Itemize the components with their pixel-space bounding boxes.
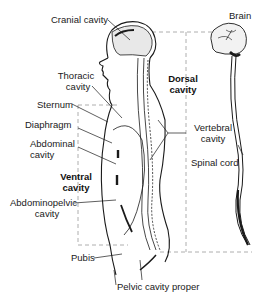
human-figure [99, 22, 169, 275]
label-ventral-cavity-2: cavity [56, 182, 96, 193]
label-ventral-cavity-1: Ventral [56, 171, 96, 182]
label-diaphragm: Diaphragm [25, 119, 71, 130]
label-sternum: Sternum [37, 99, 73, 110]
label-pelvic-cavity-proper: Pelvic cavity proper [117, 281, 199, 292]
label-abdominopelvic-cavity-1: Abdominopelvic [10, 197, 77, 208]
label-cranial-cavity: Cranial cavity [51, 14, 108, 25]
label-dorsal-cavity-2: cavity [163, 84, 203, 95]
label-abdominal-cavity-2: cavity [30, 149, 54, 160]
label-thoracic-cavity-1: Thoracic [56, 70, 96, 81]
label-abdominopelvic-cavity-2: cavity [27, 208, 67, 219]
spine [137, 58, 160, 250]
label-vertebral-cavity-2: cavity [188, 133, 238, 144]
label-pubis: Pubis [71, 252, 95, 263]
label-thoracic-cavity-2: cavity [58, 81, 98, 92]
leader-lines [72, 20, 243, 285]
label-abdominal-cavity-1: Abdominal [30, 138, 75, 149]
label-vertebral-cavity-1: Vertebral [188, 122, 238, 133]
label-brain: Brain [229, 10, 251, 21]
label-dorsal-cavity-1: Dorsal [163, 73, 203, 84]
label-spinal-cord: Spinal cord [191, 157, 239, 168]
